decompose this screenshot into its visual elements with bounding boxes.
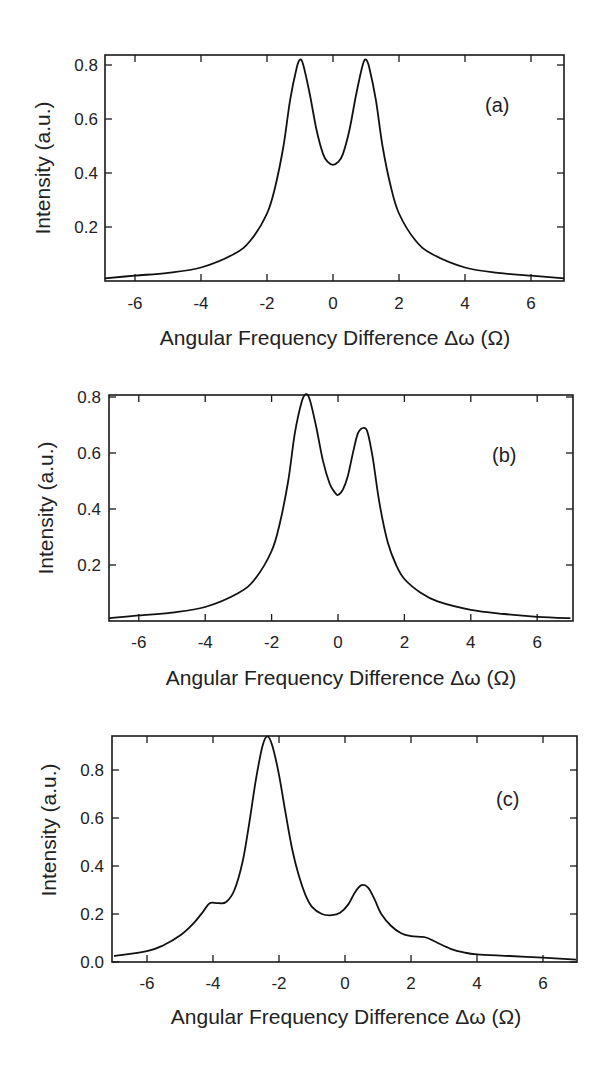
y-tick-label: 0.6 — [80, 809, 104, 828]
panel-c: 0.00.20.40.60.8 -6-4-20246 (c) Intensity… — [0, 0, 613, 1075]
x-tick-label: -4 — [205, 974, 220, 993]
axis-ticks — [112, 736, 577, 962]
x-tick-label: -6 — [139, 974, 154, 993]
x-axis-label: Angular Frequency Difference Δω (Ω) — [171, 1005, 521, 1028]
x-tick-label: 4 — [472, 974, 481, 993]
x-tick-label: 2 — [406, 974, 415, 993]
x-tick-label: -2 — [271, 974, 286, 993]
chart-panel-c: 0.00.20.40.60.8 -6-4-20246 (c) Intensity… — [0, 0, 613, 1075]
y-axis-label: Intensity (a.u.) — [37, 763, 60, 896]
plot-frame — [112, 736, 577, 962]
y-tick-label: 0.8 — [80, 761, 104, 780]
x-tick-labels: -6-4-20246 — [139, 974, 547, 993]
y-tick-labels: 0.00.20.40.60.8 — [80, 761, 104, 972]
x-tick-label: 6 — [538, 974, 547, 993]
spectrum-curve — [114, 736, 576, 959]
y-tick-label: 0.0 — [80, 953, 104, 972]
y-tick-label: 0.2 — [80, 905, 104, 924]
panel-label: (c) — [496, 788, 519, 810]
y-tick-label: 0.4 — [80, 857, 104, 876]
x-tick-label: 0 — [340, 974, 349, 993]
